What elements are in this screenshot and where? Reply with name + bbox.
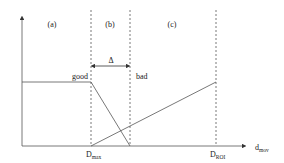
diagram-canvas: (a) (b) (c) Δ good bad Dmax DROI dmov <box>0 0 284 163</box>
delta-label: Δ <box>108 56 113 65</box>
good-label: good <box>72 72 88 81</box>
region-a-label: (a) <box>48 20 57 29</box>
diagram-svg: (a) (b) (c) Δ good bad Dmax DROI dmov <box>0 0 284 163</box>
good-curve <box>22 82 130 146</box>
bad-label: bad <box>136 72 148 81</box>
bad-curve <box>91 82 216 146</box>
region-c-label: (c) <box>168 20 177 29</box>
x-axis-label: dmov <box>255 143 269 153</box>
dmax-tick-label: Dmax <box>86 150 102 160</box>
droi-tick-label: DROI <box>210 150 225 160</box>
region-b-label: (b) <box>105 20 115 29</box>
